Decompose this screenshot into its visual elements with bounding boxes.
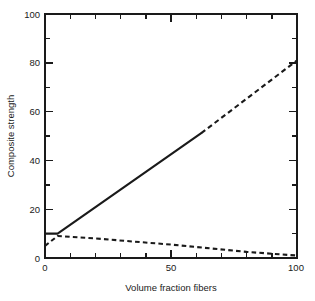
y-tick-label-60: 60 xyxy=(29,106,40,117)
y-tick-label-20: 20 xyxy=(29,204,40,215)
chart-figure: 0 50 100 0 20 40 60 80 100 Volume fracti… xyxy=(0,0,315,301)
composite-strength-line-chart: 0 50 100 0 20 40 60 80 100 Volume fracti… xyxy=(0,0,315,301)
x-axis-title: Volume fraction fibers xyxy=(125,282,217,293)
plot-area-background xyxy=(45,14,297,258)
y-tick-label-40: 40 xyxy=(29,155,40,166)
y-tick-label-0: 0 xyxy=(35,253,40,264)
y-tick-label-100: 100 xyxy=(24,9,40,20)
x-tick-label-50: 50 xyxy=(166,262,177,273)
y-tick-label-80: 80 xyxy=(29,57,40,68)
y-axis-title: Composite strength xyxy=(5,95,16,177)
x-tick-label-100: 100 xyxy=(288,262,304,273)
x-tick-label-0: 0 xyxy=(42,262,47,273)
